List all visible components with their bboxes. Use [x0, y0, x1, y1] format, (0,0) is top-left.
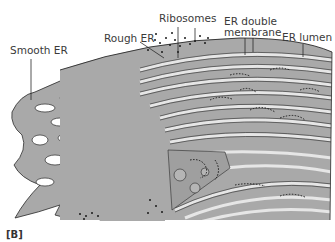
panel-label: [B]	[6, 229, 23, 240]
label-er-double-membrane-line2: membrane	[224, 27, 281, 38]
label-smooth-er: Smooth ER	[10, 45, 68, 56]
label-er-lumen: ER lumen	[282, 32, 332, 43]
label-rough-er: Rough ER	[104, 33, 155, 44]
label-ribosomes: Ribosomes	[159, 13, 216, 24]
rough-er-stack	[60, 30, 335, 230]
